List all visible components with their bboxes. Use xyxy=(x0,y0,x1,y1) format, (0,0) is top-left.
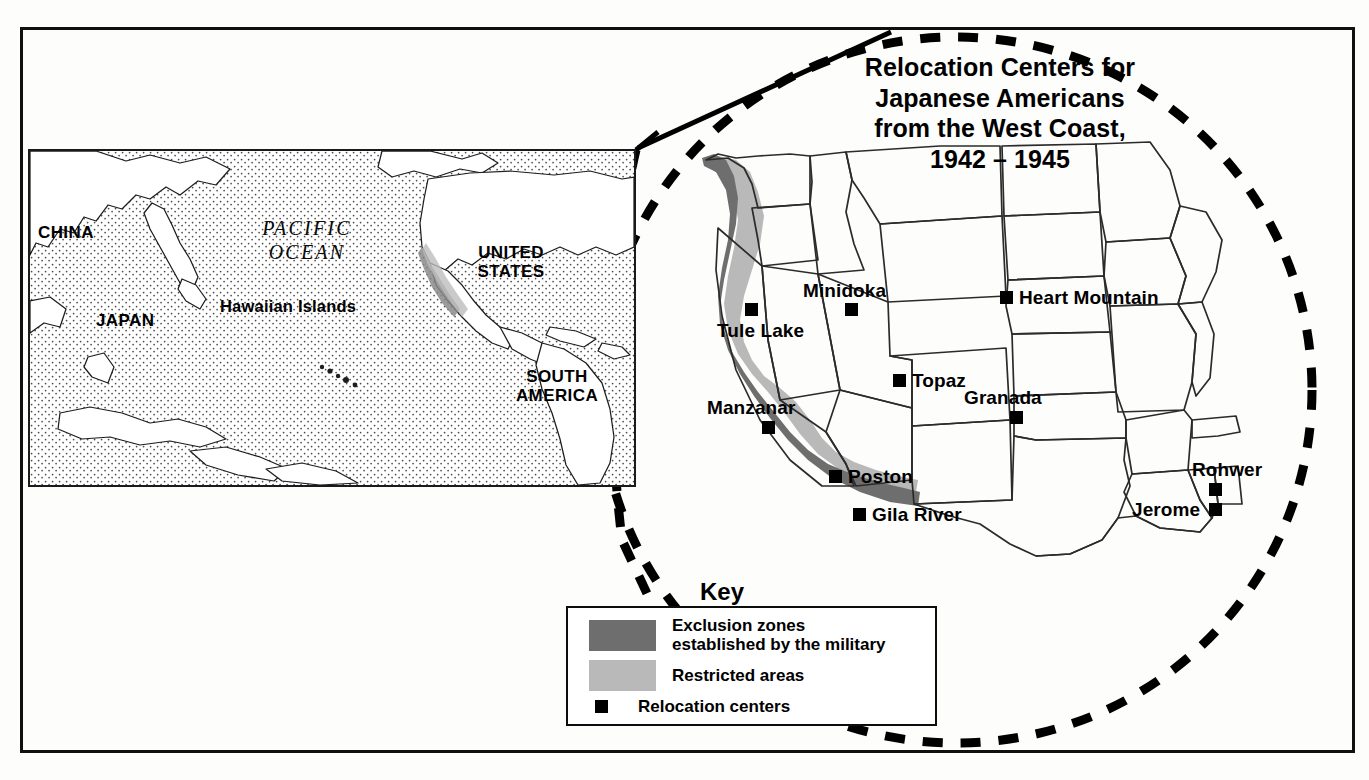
relocation-center-marker xyxy=(762,421,775,434)
inset-label-hawaiian-islands: Hawaiian Islands xyxy=(220,297,356,316)
relocation-center-marker xyxy=(745,303,758,316)
key-item-label: Exclusion zones established by the milit… xyxy=(672,616,886,654)
relocation-center-marker xyxy=(845,303,858,316)
key-item-relocation-centers: Relocation centers xyxy=(568,697,935,716)
restricted-area-swatch xyxy=(589,660,656,691)
key-item-label: Restricted areas xyxy=(672,666,804,685)
coastline-detail xyxy=(1036,516,1212,556)
relocation-center-marker xyxy=(853,508,866,521)
camp-label: Poston xyxy=(848,466,913,488)
map-figure: Relocation Centers for Japanese American… xyxy=(0,0,1369,780)
pacific-inset-map: CHINA JAPAN PACIFIC OCEAN Hawaiian Islan… xyxy=(28,149,636,487)
relocation-center-marker xyxy=(1209,503,1222,516)
camp-label: Minidoka xyxy=(803,280,886,302)
inset-label-china: CHINA xyxy=(38,223,94,242)
camp-label: Rohwer xyxy=(1192,459,1262,481)
key-item-label: Relocation centers xyxy=(638,697,790,716)
relocation-center-marker xyxy=(1000,291,1013,304)
camp-label: Gila River xyxy=(872,504,962,526)
inset-label-united-states: UNITED STATES xyxy=(456,243,566,281)
key-item-exclusion-zones: Exclusion zones established by the milit… xyxy=(568,616,935,654)
map-key: Exclusion zones established by the milit… xyxy=(566,606,937,726)
camp-label: Heart Mountain xyxy=(1019,287,1159,309)
camp-label: Topaz xyxy=(912,370,966,392)
key-heading: Key xyxy=(700,578,744,606)
inset-label-south-america: SOUTH AMERICA xyxy=(498,367,616,405)
relocation-center-marker xyxy=(829,470,842,483)
inset-label-japan: JAPAN xyxy=(96,311,154,330)
inset-label-pacific-ocean: PACIFIC OCEAN xyxy=(232,217,382,264)
state-boundaries xyxy=(706,142,1242,556)
page-title: Relocation Centers for Japanese American… xyxy=(790,52,1210,174)
exclusion-zone-swatch xyxy=(589,620,656,651)
camp-label: Tule Lake xyxy=(717,320,804,342)
key-item-restricted-areas: Restricted areas xyxy=(568,660,935,691)
camp-label: Granada xyxy=(964,387,1042,409)
relocation-center-marker xyxy=(893,374,906,387)
camp-label: Manzanar xyxy=(707,397,795,419)
relocation-center-marker xyxy=(1010,411,1023,424)
relocation-center-swatch xyxy=(595,700,608,713)
camp-label: Jerome xyxy=(1132,499,1200,521)
relocation-center-marker xyxy=(1209,483,1222,496)
western-us-detail-map xyxy=(640,120,1340,580)
